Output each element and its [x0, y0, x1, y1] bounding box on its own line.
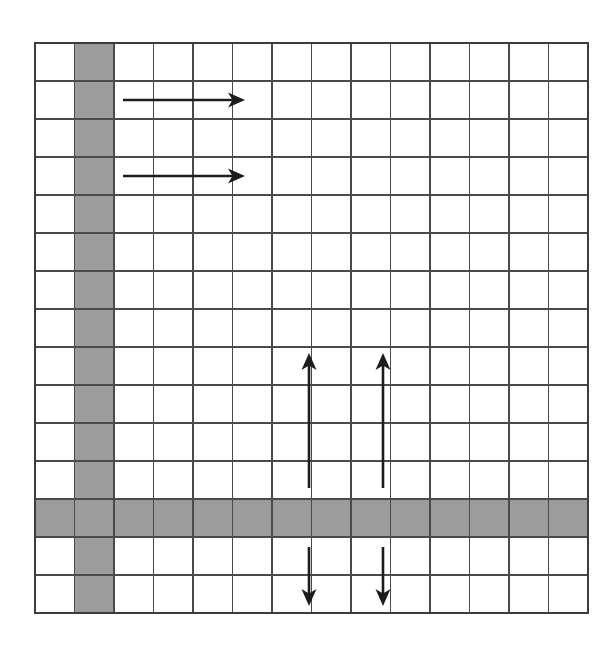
- grid-cell: [154, 385, 194, 423]
- grid-cell-shaded: [391, 499, 431, 537]
- grid-cell: [351, 537, 391, 575]
- grid-cell: [509, 233, 549, 271]
- grid-cell: [114, 347, 154, 385]
- grid-cell: [35, 81, 75, 119]
- grid-cell: [509, 575, 549, 613]
- grid-cell: [154, 575, 194, 613]
- grid-cell: [351, 43, 391, 81]
- grid-cell: [114, 233, 154, 271]
- grid-cell: [233, 271, 273, 309]
- grid-cell: [35, 119, 75, 157]
- grid-cell: [114, 119, 154, 157]
- grid-cell: [391, 43, 431, 81]
- grid-cell: [35, 423, 75, 461]
- grid-cell: [114, 43, 154, 81]
- grid-cell: [470, 271, 510, 309]
- grid-cell: [391, 347, 431, 385]
- grid-cell: [312, 233, 352, 271]
- grid-cell: [391, 233, 431, 271]
- grid-cell: [351, 119, 391, 157]
- grid-cell-shaded: [509, 499, 549, 537]
- grid-cell: [509, 119, 549, 157]
- grid-cell: [35, 157, 75, 195]
- grid-cell: [312, 271, 352, 309]
- grid-cell: [549, 309, 589, 347]
- grid-cell: [154, 271, 194, 309]
- grid-cell: [193, 43, 233, 81]
- grid-cell: [430, 157, 470, 195]
- grid-cell: [154, 537, 194, 575]
- grid-cell: [351, 195, 391, 233]
- grid-cell-shaded: [75, 81, 115, 119]
- grid-cell: [272, 233, 312, 271]
- grid-cell: [351, 385, 391, 423]
- grid-cell: [430, 423, 470, 461]
- grid-cell: [193, 461, 233, 499]
- grid-cell: [154, 195, 194, 233]
- grid-cell: [509, 157, 549, 195]
- grid-cell: [430, 347, 470, 385]
- grid-cell: [509, 195, 549, 233]
- grid-cell: [391, 385, 431, 423]
- grid-cell: [351, 233, 391, 271]
- grid-cell: [154, 309, 194, 347]
- grid-cell-shaded: [75, 347, 115, 385]
- grid-cell: [272, 461, 312, 499]
- grid-cell: [391, 537, 431, 575]
- grid-cell: [35, 195, 75, 233]
- grid-cell: [391, 271, 431, 309]
- grid-cell-shaded: [75, 233, 115, 271]
- grid-cell: [470, 157, 510, 195]
- grid-cell-shaded: [351, 499, 391, 537]
- grid-cell: [549, 157, 589, 195]
- grid-cell: [509, 423, 549, 461]
- grid-cell: [351, 271, 391, 309]
- grid-cell: [193, 271, 233, 309]
- grid-cell: [470, 119, 510, 157]
- grid-cell: [154, 233, 194, 271]
- grid-cell: [391, 157, 431, 195]
- grid-cell: [470, 385, 510, 423]
- grid-cell: [549, 385, 589, 423]
- grid-cell: [391, 81, 431, 119]
- grid-cell: [351, 309, 391, 347]
- grid-cell: [272, 385, 312, 423]
- grid-cell: [430, 537, 470, 575]
- grid-cell-shaded: [75, 195, 115, 233]
- grid-cell: [114, 271, 154, 309]
- grid-cell: [549, 461, 589, 499]
- grid-cell: [430, 461, 470, 499]
- grid-cell-shaded: [75, 157, 115, 195]
- grid-cell: [35, 385, 75, 423]
- grid-cell: [430, 81, 470, 119]
- grid-cell: [272, 423, 312, 461]
- grid-cell: [114, 575, 154, 613]
- grid-cell: [470, 195, 510, 233]
- diagram-canvas: [0, 0, 614, 650]
- grid-cell: [233, 347, 273, 385]
- grid-cell-shaded: [114, 499, 154, 537]
- grid-cell: [154, 119, 194, 157]
- grid-cell-shaded: [75, 423, 115, 461]
- grid-cell: [312, 157, 352, 195]
- grid-cell: [470, 537, 510, 575]
- grid-cell: [233, 309, 273, 347]
- grid-cell: [430, 575, 470, 613]
- grid-cell: [193, 385, 233, 423]
- grid-cell: [35, 461, 75, 499]
- grid-cell: [351, 423, 391, 461]
- grid-cell: [272, 537, 312, 575]
- grid-cell: [470, 309, 510, 347]
- grid-cell: [312, 575, 352, 613]
- grid-cell: [233, 195, 273, 233]
- grid-cell: [272, 309, 312, 347]
- grid-cell: [193, 347, 233, 385]
- grid-cell: [114, 309, 154, 347]
- grid-cell: [312, 385, 352, 423]
- grid-cell: [114, 385, 154, 423]
- grid-cell: [549, 119, 589, 157]
- grid-cell-shaded: [75, 499, 115, 537]
- grid-cell: [35, 347, 75, 385]
- grid-cell: [391, 461, 431, 499]
- grid-cell: [430, 195, 470, 233]
